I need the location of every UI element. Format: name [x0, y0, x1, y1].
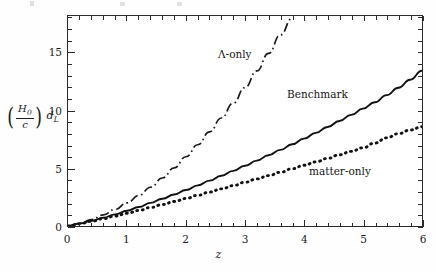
x-top-tick [209, 16, 210, 20]
x-minor-tick [269, 223, 270, 227]
x-top-tick [364, 16, 365, 21]
x-top-tick [245, 16, 246, 21]
x-top-tick [340, 16, 341, 20]
x-top-tick [103, 16, 104, 20]
y-right-tick [418, 64, 422, 65]
curve-label-lambda-only: Λ-only [218, 48, 252, 60]
x-minor-tick [411, 223, 412, 227]
x-top-tick [269, 16, 270, 20]
x-top-tick [304, 16, 305, 21]
curve-label-benchmark: Benchmark [287, 88, 348, 100]
y-right-tick [418, 204, 422, 205]
x-major-tick [364, 220, 365, 227]
x-major-tick [126, 220, 127, 227]
y-minor-tick [68, 157, 72, 158]
y-minor-tick [68, 41, 72, 42]
x-top-tick [423, 16, 424, 21]
y-right-tick [418, 169, 423, 170]
y-right-tick [418, 180, 422, 181]
x-axis-title: z [0, 248, 437, 261]
x-minor-tick [174, 223, 175, 227]
y-tick-label: 5 [41, 164, 62, 175]
y-minor-tick [68, 76, 72, 77]
x-minor-tick [340, 223, 341, 227]
x-minor-tick [257, 223, 258, 227]
y-right-tick [418, 41, 422, 42]
x-top-tick [293, 16, 294, 20]
y-minor-tick [68, 204, 72, 205]
open-paren: ( [7, 105, 14, 129]
y-minor-tick [68, 99, 72, 100]
y-major-tick [68, 169, 75, 170]
x-tick-label: 6 [420, 234, 427, 245]
x-minor-tick [115, 223, 116, 227]
x-top-tick [316, 16, 317, 20]
x-minor-tick [352, 223, 353, 227]
y-minor-tick [68, 64, 72, 65]
x-tick-label: 5 [360, 234, 367, 245]
x-minor-tick [198, 223, 199, 227]
x-top-tick [352, 16, 353, 20]
x-major-tick [423, 220, 424, 227]
y-right-tick [418, 157, 422, 158]
curve-benchmark [68, 71, 422, 226]
x-minor-tick [103, 223, 104, 227]
y-right-tick [418, 146, 422, 147]
x-minor-tick [209, 223, 210, 227]
y-right-tick [418, 99, 422, 100]
fraction-numerator: H0 [16, 104, 34, 117]
y-minor-tick [68, 17, 72, 18]
x-major-tick [67, 220, 68, 227]
x-minor-tick [150, 223, 151, 227]
x-top-tick [221, 16, 222, 20]
y-minor-tick [68, 87, 72, 88]
x-tick-label: 2 [182, 234, 189, 245]
y-minor-tick [68, 146, 72, 147]
x-tick-label: 0 [64, 234, 71, 245]
x-minor-tick [399, 223, 400, 227]
scan-artifact [120, 2, 125, 6]
y-minor-tick [68, 134, 72, 135]
plot-area [67, 15, 423, 227]
fraction-denominator: c [20, 120, 30, 130]
h0-over-c-fraction: H0 c [16, 104, 34, 130]
x-top-tick [115, 16, 116, 20]
y-right-tick [418, 52, 423, 53]
x-tick-label: 3 [242, 234, 249, 245]
y-tick-label: 10 [41, 105, 62, 116]
x-minor-tick [387, 223, 388, 227]
x-minor-tick [376, 223, 377, 227]
x-minor-tick [233, 223, 234, 227]
y-right-tick [418, 122, 422, 123]
y-minor-tick [68, 215, 72, 216]
x-top-tick [399, 16, 400, 20]
x-top-tick [328, 16, 329, 20]
x-top-tick [411, 16, 412, 20]
y-minor-tick [68, 29, 72, 30]
x-minor-tick [281, 223, 282, 227]
y-right-tick [418, 134, 422, 135]
y-minor-tick [68, 192, 72, 193]
y-right-tick [418, 227, 423, 228]
x-top-tick [150, 16, 151, 20]
y-right-tick [418, 17, 422, 18]
x-top-tick [126, 16, 127, 21]
x-top-tick [376, 16, 377, 20]
y-right-tick [418, 215, 422, 216]
x-minor-tick [221, 223, 222, 227]
curve-only [68, 18, 292, 226]
x-top-tick [174, 16, 175, 20]
x-major-tick [245, 220, 246, 227]
x-top-tick [257, 16, 258, 20]
y-right-tick [418, 111, 423, 112]
x-minor-tick [91, 223, 92, 227]
x-top-tick [387, 16, 388, 20]
x-major-tick [186, 220, 187, 227]
x-minor-tick [138, 223, 139, 227]
curve-label-matter-only: matter-only [309, 165, 371, 177]
x-major-tick [304, 220, 305, 227]
y-right-tick [418, 192, 422, 193]
y-right-tick [418, 29, 422, 30]
y-tick-label: 15 [41, 47, 62, 58]
x-top-tick [233, 16, 234, 20]
